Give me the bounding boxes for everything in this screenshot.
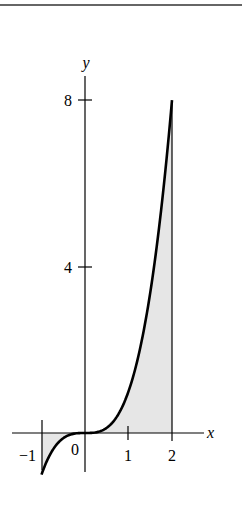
x-tick-label-1: 1 xyxy=(124,447,132,464)
y-tick-label-8: 8 xyxy=(64,92,72,109)
x-tick-label-neg1: −1 xyxy=(19,447,36,464)
y-tick-label-4: 4 xyxy=(64,259,72,276)
graph-figure: y x 8 4 −1 0 1 2 xyxy=(0,0,242,507)
x-tick-label-0: 0 xyxy=(71,441,79,458)
x-axis-label: x xyxy=(206,424,214,441)
y-axis-label: y xyxy=(80,54,90,72)
shaded-region xyxy=(42,100,173,474)
x-tick-label-2: 2 xyxy=(168,447,176,464)
